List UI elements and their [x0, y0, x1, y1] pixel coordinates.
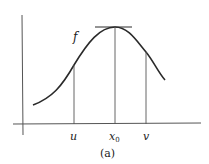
x-label-v: v — [143, 130, 150, 143]
diagram-canvas: f u x0 v (a) — [0, 0, 209, 164]
x-axis — [13, 123, 201, 124]
curve-label-f: f — [72, 30, 80, 44]
x-label-u: u — [70, 130, 77, 143]
figure-caption: (a) — [100, 147, 115, 160]
x-label-x0: x0 — [109, 130, 120, 144]
curve-f — [33, 27, 165, 105]
y-axis — [22, 15, 23, 135]
x-label-x0-subscript: 0 — [115, 136, 119, 144]
